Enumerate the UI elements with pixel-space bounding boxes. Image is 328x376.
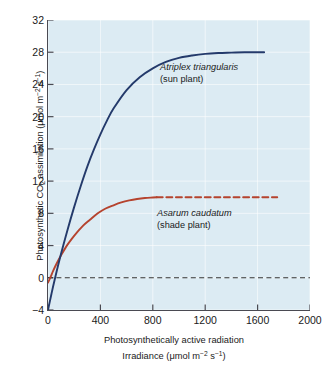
x-axis-title: Photosynthetically active radiation Irra… [34,333,314,363]
annotation-asarum-caudatum: Asarum caudatum (shade plant) [157,208,232,231]
y-tick-label: 16 [18,144,44,154]
photosynthesis-light-response-figure: Photosynthetic CO2 assimilation (μmol m−… [0,0,328,376]
x-axis-title-line2: Irradiance (μmol m−2 s−1) [34,347,314,363]
x-axis-title-superscript-2: −1 [215,350,223,357]
y-tick-label: 4 [18,241,44,251]
x-tick-label: 800 [131,314,175,327]
x-axis-spine [47,310,310,311]
x-axis-title-line2-pre: Irradiance (μmol m [122,351,200,361]
annotation-sun-species: Atriplex triangularis [160,62,238,74]
y-tick-label: 28 [18,47,44,57]
x-tick-label: 2000 [288,314,328,327]
annotation-shade-common: (shade plant) [157,220,232,232]
x-tick-label: 0 [26,314,70,327]
x-tick-label: 1600 [236,314,280,327]
x-tick-label: 1200 [183,314,227,327]
x-tick-label: 400 [78,314,122,327]
x-axis-title-mid: s [208,351,215,361]
x-axis-title-line1: Photosynthetically active radiation [104,335,244,345]
x-axis-title-end: ) [223,351,226,361]
y-tick-label: 20 [18,112,44,122]
y-tick-label: 24 [18,79,44,89]
x-axis-title-superscript-1: −2 [200,350,208,357]
y-tick-label: 8 [18,208,44,218]
y-tick-label: 32 [18,15,44,25]
y-axis-spine [47,20,48,311]
y-tick-label: 12 [18,176,44,186]
annotation-atriplex-triangularis: Atriplex triangularis (sun plant) [160,62,238,85]
annotation-sun-common: (sun plant) [160,74,238,86]
y-tick-label: 0 [18,273,44,283]
x-axis-tick-labels: 0400800120016002000 [0,314,328,330]
annotation-shade-species: Asarum caudatum [157,208,232,220]
